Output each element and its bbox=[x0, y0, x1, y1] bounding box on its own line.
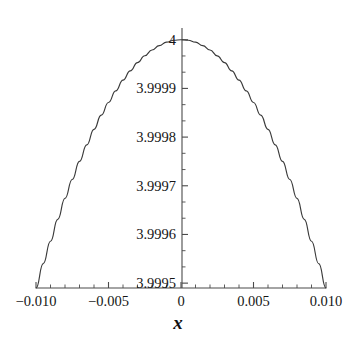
y-tick-label: 3.9999 bbox=[136, 81, 176, 96]
axes-group bbox=[36, 28, 326, 288]
data-curve bbox=[36, 40, 326, 288]
x-tick-label: −0.005 bbox=[88, 294, 129, 309]
chart-container: 3.99953.99963.99973.99983.99994 −0.010−0… bbox=[0, 0, 356, 347]
y-tick-label: 3.9996 bbox=[136, 227, 176, 242]
y-tick-label: 3.9997 bbox=[136, 179, 176, 194]
y-tick-label: 4 bbox=[169, 32, 176, 47]
x-axis-title: x bbox=[173, 312, 183, 334]
x-axis-ticks bbox=[36, 282, 326, 288]
x-tick-label: 0 bbox=[177, 294, 184, 309]
x-tick-label: −0.010 bbox=[16, 294, 57, 309]
y-axis-ticks bbox=[182, 40, 188, 283]
x-tick-label: 0.010 bbox=[310, 294, 343, 309]
x-tick-label: 0.005 bbox=[237, 294, 270, 309]
y-tick-label: 3.9995 bbox=[136, 276, 176, 291]
y-tick-label: 3.9998 bbox=[136, 130, 176, 145]
